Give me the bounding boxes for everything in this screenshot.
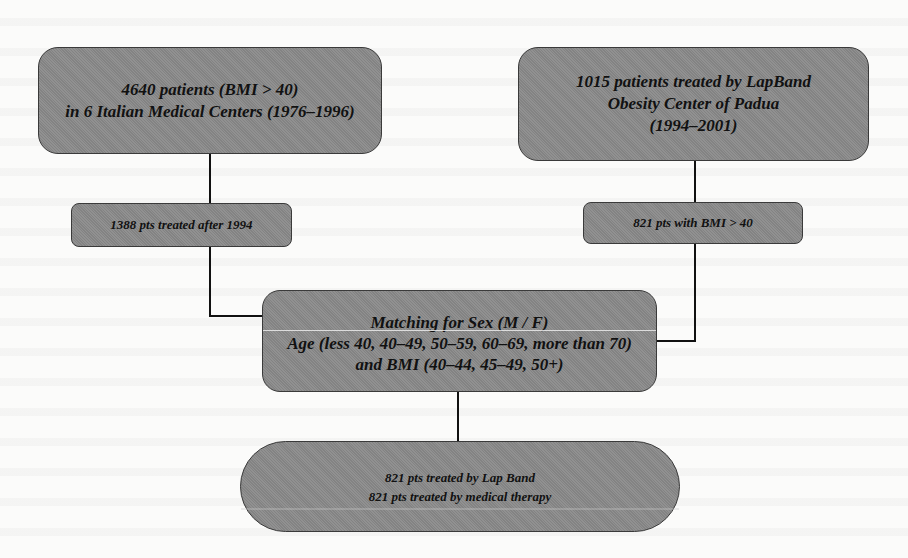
node-text: Obesity Center of Padua <box>608 93 779 115</box>
node-text: 821 pts treated by medical therapy <box>369 487 551 506</box>
node-result-groups: 821 pts treated by Lap Band 821 pts trea… <box>240 441 680 532</box>
node-text: 4640 patients (BMI > 40) <box>122 79 299 101</box>
connector-e-to-f <box>457 392 459 441</box>
node-text: and BMI (40–44, 45–49, 50+) <box>355 354 563 375</box>
node-text: 821 pts with BMI > 40 <box>633 215 753 231</box>
node-matching-criteria: Matching for Sex (M / F) Age (less 40, 4… <box>262 290 657 392</box>
node-text: in 6 Italian Medical Centers (1976–1996) <box>65 101 354 123</box>
node-italian-centers: 4640 patients (BMI > 40) in 6 Italian Me… <box>38 47 382 154</box>
connector-b-to-d <box>694 161 696 202</box>
connector-c-to-e-horizontal <box>209 315 263 317</box>
node-bmi-over-40: 821 pts with BMI > 40 <box>583 202 803 244</box>
node-padua-center: 1015 patients treated by LapBand Obesity… <box>518 47 869 161</box>
connector-c-to-e-vertical <box>209 247 211 317</box>
node-treated-after-1994: 1388 pts treated after 1994 <box>71 203 292 247</box>
connector-d-to-e-horizontal <box>656 340 696 342</box>
node-text: Age (less 40, 40–49, 50–59, 60–69, more … <box>287 333 632 354</box>
connector-a-to-c <box>209 154 211 203</box>
connector-d-to-e-vertical <box>694 244 696 342</box>
node-text: 1015 patients treated by LapBand <box>576 71 811 93</box>
scan-artifact-line <box>241 508 679 510</box>
node-text: 1388 pts treated after 1994 <box>110 217 252 233</box>
node-text: 821 pts treated by Lap Band <box>385 468 535 487</box>
node-text: (1994–2001) <box>650 115 738 137</box>
scan-artifact-line <box>263 330 656 331</box>
